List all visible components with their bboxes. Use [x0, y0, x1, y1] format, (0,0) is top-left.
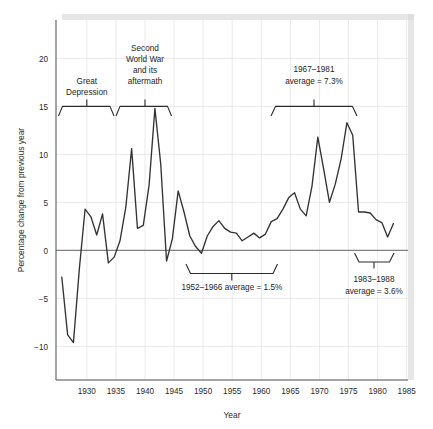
y-tick-label-15: 15 [39, 103, 49, 112]
x-tick-label-1930: 1930 [78, 387, 97, 396]
annotation-avg-1983-1988-line2: average = 3.6% [345, 287, 403, 296]
inflation-line-chart: Great Depression Second World War and it… [0, 0, 433, 429]
x-axis-title: Year [224, 410, 241, 420]
annotation-avg-1983-1988-line1: 1983–1988 [354, 275, 395, 284]
y-tick-label-5: 5 [43, 199, 48, 208]
y-tick-label-0: 0 [43, 247, 48, 256]
annotation-great-depression-line1: Great [77, 77, 98, 86]
x-tick-label-1975: 1975 [339, 387, 358, 396]
x-tick-label-1980: 1980 [368, 387, 387, 396]
annotation-avg-1952-1966-line1: 1952–1966 average = 1.5% [181, 283, 282, 292]
x-tick-label-1960: 1960 [252, 387, 271, 396]
y-tick-label-10: 10 [39, 151, 49, 160]
x-tick-label-1940: 1940 [136, 387, 155, 396]
annotation-avg-1967-1981-line2: average = 7.3% [285, 77, 343, 86]
x-tick-label-1955: 1955 [223, 387, 242, 396]
right-shadow-band [408, 14, 414, 380]
x-tick-label-1965: 1965 [281, 387, 300, 396]
annotation-second-world-war-line3: and its [133, 66, 157, 75]
top-shadow-band [62, 14, 414, 20]
annotation-second-world-war-line1: Second [131, 44, 159, 53]
x-tick-label-1970: 1970 [310, 387, 329, 396]
y-tick-label-20: 20 [39, 55, 49, 64]
x-tick-label-1950: 1950 [194, 387, 213, 396]
chart-figure: Great Depression Second World War and it… [0, 0, 433, 429]
y-axis-title: Percentage change from previous year [16, 128, 26, 273]
x-tick-label-1935: 1935 [107, 387, 126, 396]
annotation-avg-1967-1981-line1: 1967–1981 [294, 65, 335, 74]
x-tick-label-1985: 1985 [398, 387, 417, 396]
annotation-second-world-war-line4: aftermath [128, 77, 163, 86]
annotation-great-depression-line2: Depression [66, 88, 108, 97]
y-tick-label-neg5: −5 [39, 295, 49, 304]
x-tick-label-1945: 1945 [165, 387, 184, 396]
y-tick-label-neg10: −10 [34, 343, 48, 352]
annotation-second-world-war-line2: World War [126, 55, 164, 64]
